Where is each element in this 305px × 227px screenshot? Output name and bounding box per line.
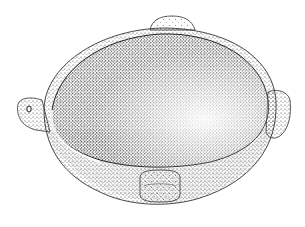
lug-handle-front <box>140 170 180 202</box>
handle-hole <box>27 106 31 112</box>
bowl-illustration <box>0 0 305 227</box>
